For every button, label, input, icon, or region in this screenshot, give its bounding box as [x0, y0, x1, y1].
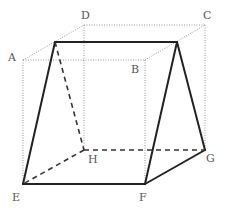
vertex-label-d: D	[81, 10, 90, 21]
cube-edges	[23, 25, 205, 184]
vertex-label-b: B	[131, 64, 139, 75]
vertex-label-f: F	[139, 192, 147, 203]
cube-drawing	[0, 0, 225, 212]
solid-edges	[23, 42, 205, 184]
vertex-label-a: A	[8, 52, 16, 63]
vertex-label-e: E	[12, 192, 20, 203]
cube-diagram: A B C D E F G H	[0, 0, 225, 212]
vertex-label-c: C	[203, 10, 211, 21]
vertex-label-g: G	[206, 153, 215, 164]
vertex-label-h: H	[88, 154, 98, 165]
